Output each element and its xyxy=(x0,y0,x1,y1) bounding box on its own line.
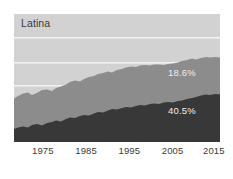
x-tick-label-1995: 1995 xyxy=(119,145,141,157)
area-chart-svg xyxy=(14,14,220,142)
x-tick-label-1975: 1975 xyxy=(32,145,54,157)
plot-area xyxy=(14,14,220,142)
gridline-75 xyxy=(14,37,220,39)
x-axis: 1975 1985 1995 2005 2015 xyxy=(14,145,220,159)
x-tick-label-2015: 2015 xyxy=(203,145,225,157)
chart-figure: Latina 18.6% 40.5% 1975 1985 1995 2005 2… xyxy=(0,0,233,179)
x-tick-label-1985: 1985 xyxy=(75,145,97,157)
x-tick-label-2005: 2005 xyxy=(162,145,184,157)
chart-title: Latina xyxy=(21,17,50,29)
upper-band-value-label: 18.6% xyxy=(168,67,196,78)
lower-band-value-label: 40.5% xyxy=(168,105,196,116)
